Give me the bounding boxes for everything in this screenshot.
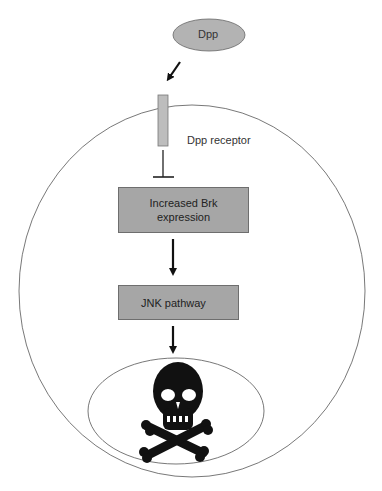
brk-expression-box: Increased Brk expression	[118, 187, 249, 233]
dpp-receptor-bar	[158, 95, 168, 146]
jnk-pathway-box: JNK pathway	[118, 285, 239, 320]
diagram-canvas	[0, 0, 382, 491]
brk-label-line2: expression	[157, 210, 210, 224]
jnk-label: JNK pathway	[141, 296, 206, 310]
skull-and-crossbones-icon	[139, 362, 213, 463]
arrow-dpp-to-receptor	[169, 62, 180, 78]
brk-label-line1: Increased Brk	[150, 196, 218, 210]
dpp-receptor-label: Dpp receptor	[187, 134, 251, 146]
dpp-ligand-label: Dpp	[198, 28, 218, 40]
